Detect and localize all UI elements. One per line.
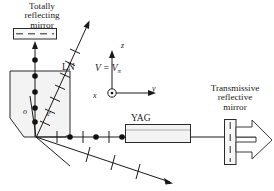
yag-crystal-label: YAG (131, 114, 151, 124)
ln-crystal-body (10, 71, 70, 137)
axis-x-center-dot-icon (111, 92, 114, 95)
output-diagonal-ticks (86, 147, 140, 179)
totally-reflecting-mirror-label: Totally reflecting mirror (4, 2, 80, 30)
beam-marker-dot (93, 134, 99, 140)
axis-y-label: y (152, 85, 156, 93)
beam-marker-dot (67, 134, 73, 140)
axis-x-label: x (93, 92, 97, 100)
tilted-beam-arrowhead (84, 21, 90, 30)
beam-marker-dot (32, 105, 38, 111)
beam-marker-dot (119, 134, 125, 140)
output-beam-hollow-arrow (236, 120, 272, 159)
beam-marker-dot (32, 57, 38, 63)
ordinary-ray-label: o (23, 108, 27, 116)
voltage-subscript: π (118, 67, 121, 74)
ln-crystal-label: LN (62, 63, 75, 73)
figure-canvas: Totally reflecting mirror Transmissive r… (0, 0, 274, 191)
output-diagonal-arrowhead (164, 178, 173, 185)
beam-marker-dot (32, 73, 38, 79)
voltage-label: V = Vπ (95, 64, 121, 74)
beam-marker-dot (32, 89, 38, 95)
yag-crystal-body (126, 125, 191, 143)
voltage-label-text: V = V (95, 63, 118, 73)
axis-z-label: z (121, 42, 124, 50)
axis-z-arrowhead (109, 50, 115, 58)
extraordinary-ray-label: e (47, 110, 51, 118)
vertical-beam-arrowhead (32, 41, 38, 49)
transmissive-reflective-mirror-label: Transmissive reflective mirror (198, 84, 272, 112)
output-diagonal-beam (36, 137, 170, 182)
cavity-edge-diagonal (36, 137, 70, 166)
